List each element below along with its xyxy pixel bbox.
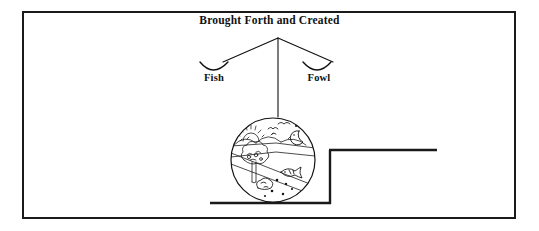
diagram-canvas [0, 0, 539, 231]
arc-fowl [303, 62, 331, 70]
branch-label-fish: Fish [186, 72, 242, 83]
branch-line-left [223, 38, 278, 62]
branch-line-right [278, 38, 333, 62]
branch-label-fowl: Fowl [288, 72, 350, 83]
creation-scene-circle [231, 118, 315, 202]
diagram-title: Brought Forth and Created [0, 14, 539, 26]
figure-page: Brought Forth and Created Fish Fowl [0, 0, 539, 231]
branch-arcs [200, 62, 331, 70]
arc-fish [200, 62, 228, 70]
